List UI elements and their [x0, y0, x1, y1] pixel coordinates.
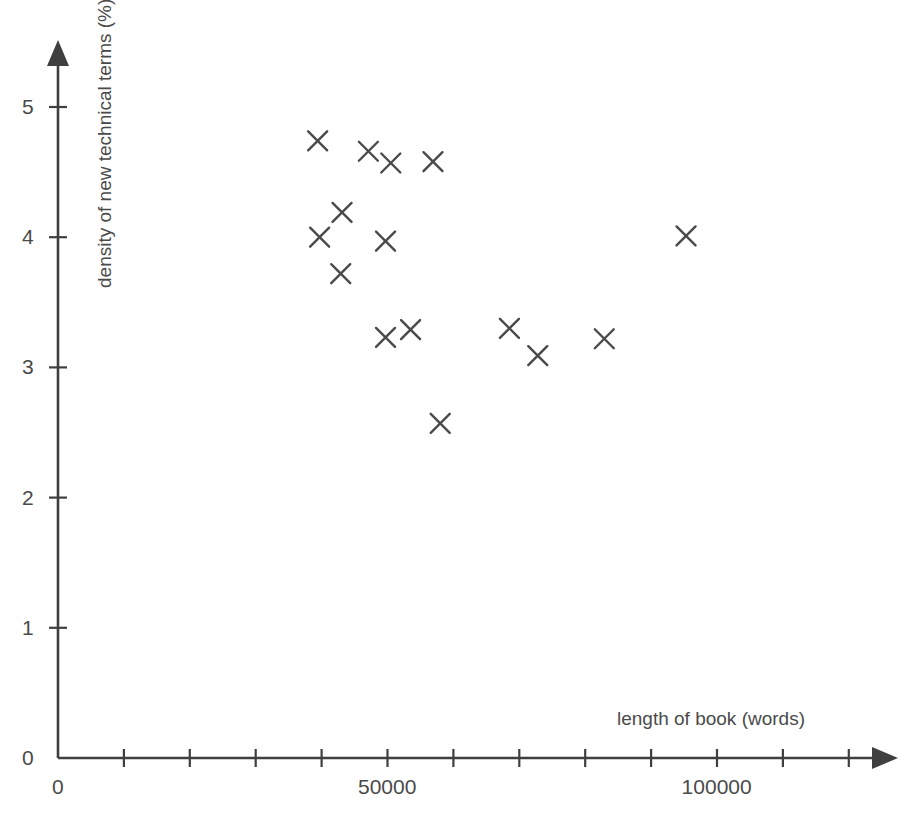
scatter-plot-figure: 050000100000012345 density of new techni… — [0, 0, 923, 817]
data-point — [376, 328, 395, 347]
plot-canvas — [0, 0, 923, 817]
data-point — [310, 228, 329, 247]
data-point — [423, 152, 442, 171]
y-tick-label: 2 — [22, 487, 34, 508]
data-point — [333, 203, 352, 222]
y-tick-label: 5 — [22, 96, 34, 117]
data-point — [500, 319, 519, 338]
y-tick-label: 4 — [22, 226, 34, 247]
data-point — [431, 414, 450, 433]
y-tick-label: 1 — [22, 617, 34, 638]
x-axis-label: length of book (words) — [617, 708, 805, 730]
data-point — [401, 320, 420, 339]
x-tick-label: 0 — [52, 776, 64, 797]
y-tick-label: 0 — [22, 747, 34, 768]
axis-ticks — [49, 107, 849, 767]
data-point — [376, 232, 395, 251]
data-points — [308, 131, 695, 433]
y-axis-label: density of new technical terms (%) — [94, 0, 116, 288]
x-tick-label: 50000 — [358, 776, 416, 797]
data-point — [595, 329, 614, 348]
axes — [47, 40, 898, 769]
data-point — [677, 226, 696, 245]
x-tick-label: 100000 — [682, 776, 752, 797]
y-tick-label: 3 — [22, 356, 34, 377]
data-point — [381, 153, 400, 172]
data-point — [528, 346, 547, 365]
data-point — [308, 131, 327, 150]
data-point — [359, 142, 378, 161]
data-point — [331, 264, 350, 283]
